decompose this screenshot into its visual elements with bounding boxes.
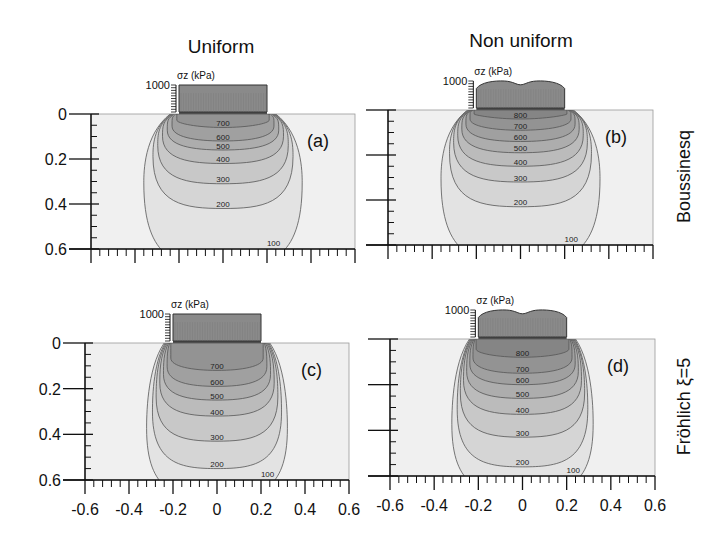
contour-label: 500 <box>514 144 528 153</box>
load-axis-max: 1000 <box>140 308 164 320</box>
x-tick-label: -0.6 <box>376 497 404 514</box>
contour-label: 800 <box>516 349 530 358</box>
contour-label: 600 <box>514 133 528 142</box>
contour-plots: 1002003004005006007001000σz (kPa)00.20.4… <box>0 0 721 541</box>
contour-label: 400 <box>516 406 530 415</box>
contour-label: 200 <box>516 458 530 467</box>
load-distribution <box>476 81 564 108</box>
load-axis-max: 1000 <box>445 304 469 316</box>
load-distribution <box>179 85 267 112</box>
contour-label: 100 <box>267 239 281 248</box>
contour-label: 100 <box>565 235 579 244</box>
y-tick-label: 0.2 <box>45 151 67 168</box>
panel-c: 1002003004005006007001000σz (kPa)00.20.4… <box>39 299 360 518</box>
x-tick-label: 0.4 <box>600 497 622 514</box>
panel-label: (b) <box>605 127 627 147</box>
x-tick-label: 0 <box>213 501 222 518</box>
x-tick-label: 0.4 <box>294 501 316 518</box>
contour-label: 300 <box>514 174 528 183</box>
x-tick-label: 0.2 <box>556 497 578 514</box>
x-tick-label: 0 <box>518 497 527 514</box>
contour-label: 500 <box>516 390 530 399</box>
load-distribution <box>173 314 261 341</box>
contour-label: 400 <box>210 408 224 417</box>
contour-label: 300 <box>216 175 230 184</box>
y-tick-label: 0 <box>58 106 67 123</box>
panel-label: (d) <box>607 356 629 376</box>
contour-label: 500 <box>210 392 224 401</box>
contour-label: 300 <box>210 433 224 442</box>
load-axis-label: σz (kPa) <box>476 295 514 306</box>
contour-label: 700 <box>210 362 224 371</box>
panel-a: 1002003004005006007001000σz (kPa)00.20.4… <box>45 70 355 267</box>
contour-label: 700 <box>514 122 528 131</box>
load-axis-label: σz (kPa) <box>171 299 209 310</box>
panel-label: (a) <box>307 131 329 151</box>
x-tick-label: -0.2 <box>159 501 187 518</box>
contour-label: 100 <box>261 470 275 479</box>
contour-label: 600 <box>210 378 224 387</box>
load-axis-max: 1000 <box>443 75 467 87</box>
load-axis-max: 1000 <box>146 79 170 91</box>
x-tick-label: -0.4 <box>420 497 448 514</box>
contour-label: 400 <box>514 158 528 167</box>
contour-label: 100 <box>567 466 581 475</box>
load-distribution <box>478 310 566 337</box>
load-axis-label: σz (kPa) <box>474 66 512 77</box>
contour-label: 400 <box>216 155 230 164</box>
contour-label: 800 <box>514 111 528 120</box>
figure: Uniform Non uniform Boussinesq Fröhlich … <box>0 0 721 541</box>
x-tick-label: -0.4 <box>115 501 143 518</box>
load-axis-label: σz (kPa) <box>177 70 215 81</box>
panel-label: (c) <box>301 360 322 380</box>
contour-label: 700 <box>216 119 230 128</box>
contour-label: 700 <box>516 365 530 374</box>
contour-label: 600 <box>216 133 230 142</box>
x-tick-label: -0.6 <box>71 501 99 518</box>
y-tick-label: 0.4 <box>45 196 67 213</box>
x-tick-label: 0.6 <box>338 501 360 518</box>
y-tick-label: 0 <box>52 335 61 352</box>
contour-label: 200 <box>210 460 224 469</box>
y-tick-label: 0.2 <box>39 381 61 398</box>
y-tick-label: 0.6 <box>39 472 61 489</box>
y-tick-label: 0.6 <box>45 241 67 258</box>
contour-label: 300 <box>516 429 530 438</box>
contour-label: 600 <box>516 376 530 385</box>
x-tick-label: -0.2 <box>465 497 493 514</box>
y-tick-label: 0.4 <box>39 426 61 443</box>
contour-label: 200 <box>514 198 528 207</box>
contour-label: 500 <box>216 142 230 151</box>
panel-d: 1002003004005006007008001000σz (kPa)-0.6… <box>368 295 666 514</box>
contour-label: 200 <box>216 200 230 209</box>
panel-b: 1002003004005006007008001000σz (kPa)(b) <box>366 66 653 263</box>
x-tick-label: 0.2 <box>250 501 272 518</box>
x-tick-label: 0.6 <box>644 497 666 514</box>
